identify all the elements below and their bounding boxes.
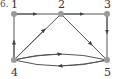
figure-prefix-label: 6.	[0, 0, 9, 9]
node-label-3: 3	[104, 0, 111, 11]
node-3	[104, 11, 110, 17]
node-label-2: 2	[58, 0, 65, 11]
node-2	[58, 11, 64, 17]
arrow-2-5-icon	[61, 14, 91, 44]
node-5	[104, 57, 110, 63]
node-label-5: 5	[104, 66, 111, 79]
node-label-4: 4	[11, 66, 18, 79]
directed-graph: 6. 1 2 3 4 5	[0, 0, 115, 79]
node-1	[11, 11, 17, 17]
node-4	[11, 57, 17, 63]
node-label-1: 1	[11, 0, 18, 11]
